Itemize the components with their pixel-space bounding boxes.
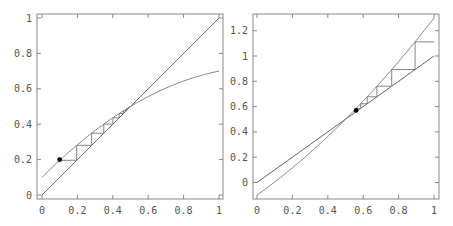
start-point-marker — [57, 157, 62, 162]
map-curve — [257, 18, 434, 195]
y-tick-label: 0.2 — [230, 152, 248, 163]
map-curve — [42, 71, 219, 177]
y-tick-label: 0.8 — [230, 76, 248, 87]
x-tick-label: 0 — [39, 205, 45, 216]
y-tick-label: 0.4 — [230, 126, 248, 137]
x-tick-label: 0.2 — [68, 205, 86, 216]
x-tick-label: 0.4 — [104, 205, 122, 216]
x-tick-label: 0.2 — [283, 205, 301, 216]
y-tick-label: 0.2 — [14, 154, 32, 165]
x-tick-label: 0.8 — [390, 205, 408, 216]
y-tick-label: 0 — [242, 177, 248, 188]
y-tick-label: 0.4 — [14, 119, 32, 130]
cobweb-path — [356, 42, 434, 109]
chart-2: 00.20.40.60.8100.20.40.60.811.2 — [230, 14, 439, 216]
y-tick-label: 0.6 — [14, 83, 32, 94]
y-tick-label: 1 — [242, 51, 248, 62]
start-point-marker — [354, 108, 359, 113]
x-tick-label: 0.8 — [175, 205, 193, 216]
y-tick-label: 0.6 — [230, 101, 248, 112]
chart-canvas: 00.20.40.60.8100.20.40.60.8100.20.40.60.… — [0, 0, 453, 226]
x-tick-label: 0.4 — [319, 205, 337, 216]
chart-1: 00.20.40.60.8100.20.40.60.81 — [14, 13, 223, 217]
x-tick-label: 0.6 — [354, 205, 372, 216]
plot-frame — [253, 14, 439, 199]
x-tick-label: 0.6 — [139, 205, 157, 216]
cobweb-path — [60, 107, 130, 161]
y-tick-label: 1 — [26, 13, 32, 24]
x-tick-label: 0 — [254, 205, 260, 216]
x-tick-label: 1 — [216, 205, 222, 216]
y-tick-label: 0 — [26, 190, 32, 201]
y-tick-label: 0.8 — [14, 48, 32, 59]
y-tick-label: 1.2 — [230, 25, 248, 36]
x-tick-label: 1 — [431, 205, 437, 216]
